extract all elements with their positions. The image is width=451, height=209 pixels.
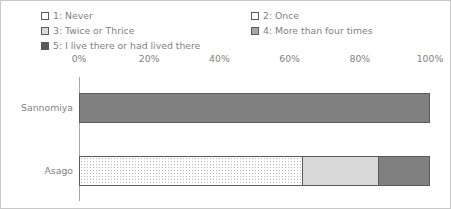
x-tick-label-40: 40%: [209, 53, 230, 64]
x-tick-label-100: 100%: [417, 53, 444, 64]
bar-sannomiya: [79, 93, 430, 123]
x-tick-label-0: 0%: [72, 53, 87, 64]
bar-segment-asago-never[interactable]: [79, 156, 303, 186]
bar-segment-sannomiya-live[interactable]: [79, 93, 430, 123]
category-label-sannomiya: Sannomiya: [21, 102, 73, 113]
bar-segment-asago-twice[interactable]: [302, 156, 379, 186]
bar-asago: [79, 156, 430, 186]
x-tick-label-80: 80%: [349, 53, 370, 64]
x-tick-label-20: 20%: [139, 53, 160, 64]
plot-area: 0% 20% 40% 60% 80% 100% Sannomiya Asago: [1, 1, 451, 209]
category-label-asago: Asago: [45, 165, 74, 176]
x-tick-label-60: 60%: [279, 53, 300, 64]
chart-frame: 1: Never 2: Once 3: Twice or Thrice 4: M…: [0, 0, 451, 209]
bar-segment-asago-live[interactable]: [378, 156, 430, 186]
